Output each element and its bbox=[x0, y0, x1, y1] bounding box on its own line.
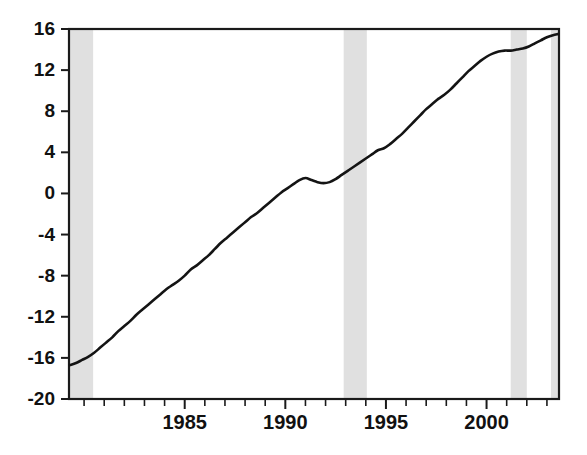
y-tick-label: -8 bbox=[38, 265, 55, 286]
recession-band bbox=[511, 29, 527, 399]
y-tick-label: 4 bbox=[44, 141, 55, 162]
x-tick-label: 1990 bbox=[263, 411, 308, 433]
recession-bands-group bbox=[69, 29, 559, 399]
y-tick-label: 16 bbox=[34, 18, 55, 39]
y-tick-label: 0 bbox=[44, 182, 55, 203]
series-line-group bbox=[70, 34, 558, 365]
recession-band bbox=[69, 29, 93, 399]
y-tick-label: 12 bbox=[34, 59, 55, 80]
y-axis-tick-labels: 1612840-4-8-12-16-20 bbox=[28, 18, 56, 409]
x-tick-label: 2000 bbox=[464, 411, 509, 433]
y-tick-label: -12 bbox=[28, 306, 55, 327]
x-tick-label: 1985 bbox=[162, 411, 207, 433]
x-axis-tick-labels: 1985199019952000 bbox=[162, 411, 508, 433]
y-axis-ticks bbox=[61, 29, 69, 399]
y-tick-label: -16 bbox=[28, 347, 55, 368]
line-chart-plot: 1612840-4-8-12-16-20 1985199019952000 bbox=[0, 0, 587, 455]
y-tick-label: -20 bbox=[28, 388, 55, 409]
plot-frame-rect bbox=[69, 29, 559, 399]
plot-frame bbox=[69, 29, 559, 399]
y-tick-label: 8 bbox=[44, 100, 55, 121]
x-tick-label: 1995 bbox=[364, 411, 409, 433]
data-series-line bbox=[70, 34, 558, 365]
recession-band bbox=[551, 29, 559, 399]
x-axis-ticks bbox=[84, 399, 547, 409]
y-tick-label: -4 bbox=[38, 224, 55, 245]
recession-band bbox=[344, 29, 367, 399]
chart-figure: 1612840-4-8-12-16-20 1985199019952000 bbox=[0, 0, 587, 455]
